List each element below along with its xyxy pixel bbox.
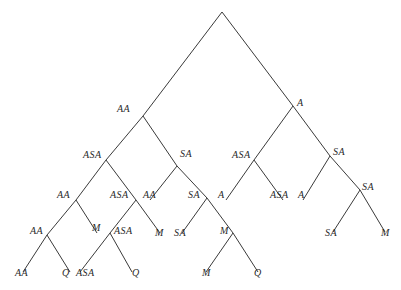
tree-edge [360,190,385,232]
tree-edge [143,116,177,166]
tree-edge [76,160,106,200]
tree-edge [293,106,330,156]
leaf-node-label: SA [174,228,186,238]
internal-node-label: SA [188,190,200,200]
tree-edge [303,156,330,200]
leaf-node-label: M [381,228,390,238]
leaf-node-label: A [218,190,225,200]
internal-node-label: ASA [114,226,133,236]
internal-node-label: M [220,226,229,236]
leaf-node-label: Q [132,268,140,278]
internal-node-label: ASA [110,190,129,200]
internal-node-label: SA [180,149,192,159]
internal-node-label: ASA [232,150,251,160]
leaf-node-label: ASA [76,268,95,278]
tree-edge [110,233,132,272]
internal-node-label: AA [30,226,43,236]
leaf-node-label: A [298,190,305,200]
leaf-node-label: M [202,268,211,278]
tree-edge [143,12,222,116]
leaf-node-label: M [155,228,164,238]
leaf-node-label: AA [15,268,28,278]
tree-edge [330,156,360,190]
internal-node-label: ASA [83,150,102,160]
tree-edge [226,160,254,200]
internal-node-label: AA [117,104,130,114]
tree-edge [254,106,293,160]
leaf-node-label: Q [254,268,262,278]
internal-node-label: SA [333,147,345,157]
internal-node-label: SA [362,182,374,192]
leaf-node-label: Q [62,268,70,278]
internal-node-label: A [297,98,304,108]
tree-diagram [0,0,401,290]
leaf-node-label: M [92,223,101,233]
leaf-node-label: AA [143,190,156,200]
tree-edge [333,190,360,232]
tree-edge [47,200,76,235]
leaf-node-label: SA [325,228,337,238]
leaf-node-label: ASA [270,190,289,200]
tree-edge [222,12,293,106]
tree-edge [106,116,143,160]
internal-node-label: AA [57,190,70,200]
